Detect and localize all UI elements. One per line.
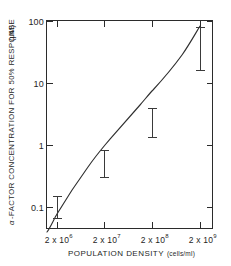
error-bar-point-4	[196, 27, 205, 71]
y-tick-label-100: 100	[28, 17, 44, 27]
x-tick-label-group-2e6: 2 x 10 6	[45, 233, 74, 245]
y-axis-title-alpha: α	[7, 220, 16, 225]
x-axis-ticks-top	[58, 21, 201, 27]
plot-frame-box	[47, 21, 213, 229]
x-tick-label-2e7: 2 x 10	[93, 235, 117, 245]
x-tick-label-group-2e7: 2 x 10 7	[93, 233, 122, 245]
x-axis-tick-labels: 2 x 10 6 2 x 10 7 2 x 10 8 2 x 10 9	[45, 233, 218, 245]
y-axis-title-unit: (μM)	[7, 25, 16, 41]
y-axis-ticks-right	[207, 22, 213, 208]
y-tick-label-0.1: 0.1	[31, 203, 44, 213]
y-axis-title-group: α -FACTOR CONCENTRATION FOR 50% RESPONSE…	[7, 19, 16, 225]
error-bar-point-2	[100, 150, 109, 178]
data-curve-group	[47, 26, 200, 232]
error-bars-group	[53, 27, 205, 219]
x-axis-title-unit: (cells/ml)	[167, 250, 195, 258]
error-bar-point-3	[148, 108, 157, 138]
y-axis-ticks	[47, 22, 53, 208]
figure-container: 100 10 1 0.1 2 x 10	[0, 0, 231, 266]
plot-frame	[47, 21, 213, 229]
x-tick-label-2e8: 2 x 10	[141, 235, 165, 245]
x-tick-exponent-2e7: 7	[117, 233, 121, 239]
x-axis-ticks-bottom	[58, 222, 201, 228]
x-tick-label-2e9: 2 x 10	[189, 235, 213, 245]
x-axis-title: POPULATION DENSITY	[68, 249, 164, 258]
y-axis-tick-labels: 100 10 1 0.1	[28, 17, 44, 213]
x-tick-label-group-2e9: 2 x 10 9	[189, 233, 218, 245]
y-tick-label-1: 1	[39, 141, 44, 151]
x-tick-label-group-2e8: 2 x 10 8	[141, 233, 170, 245]
x-tick-exponent-2e9: 9	[213, 233, 217, 239]
x-tick-label-2e6: 2 x 10	[45, 235, 69, 245]
x-axis-title-group: POPULATION DENSITY (cells/ml)	[68, 249, 195, 258]
chart-svg: 100 10 1 0.1 2 x 10	[0, 0, 231, 266]
y-axis-title: -FACTOR CONCENTRATION FOR 50% RESPONSE	[7, 19, 16, 219]
x-tick-exponent-2e8: 8	[165, 233, 169, 239]
x-tick-exponent-2e6: 6	[69, 233, 73, 239]
y-tick-label-10: 10	[34, 79, 44, 89]
curve-path	[47, 26, 200, 232]
